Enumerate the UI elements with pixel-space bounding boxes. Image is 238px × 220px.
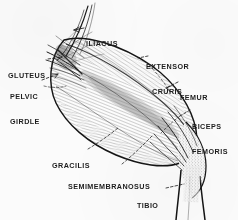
label-pelvic-girdle: PELVIC GIRDLE	[10, 76, 40, 143]
label-femur-line-1: FEMUR	[180, 94, 208, 102]
leader-tibio-fibula	[166, 184, 184, 188]
label-pelvic-girdle-line-1: PELVIC	[10, 93, 40, 101]
label-pelvic-girdle-line-2: GIRDLE	[10, 118, 40, 126]
label-tibio-fibula-line-1: TIBIO	[137, 202, 166, 210]
label-iliacus: ILIACUS	[86, 24, 118, 65]
label-biceps-femoris-line-2: FEMORIS	[192, 148, 228, 156]
label-biceps-femoris: BICEPS FEMORIS	[192, 106, 228, 173]
label-iliacus-line-1: ILIACUS	[86, 40, 118, 48]
anatomical-figure: ILIACUS GLUTEUS EXTENSOR CRURIS PELVIC G…	[0, 0, 238, 220]
label-extensor-cruris-line-1: EXTENSOR	[146, 63, 189, 71]
label-tibio-fibula: TIBIO FIBULA	[137, 185, 166, 220]
label-biceps-femoris-line-1: BICEPS	[192, 123, 228, 131]
